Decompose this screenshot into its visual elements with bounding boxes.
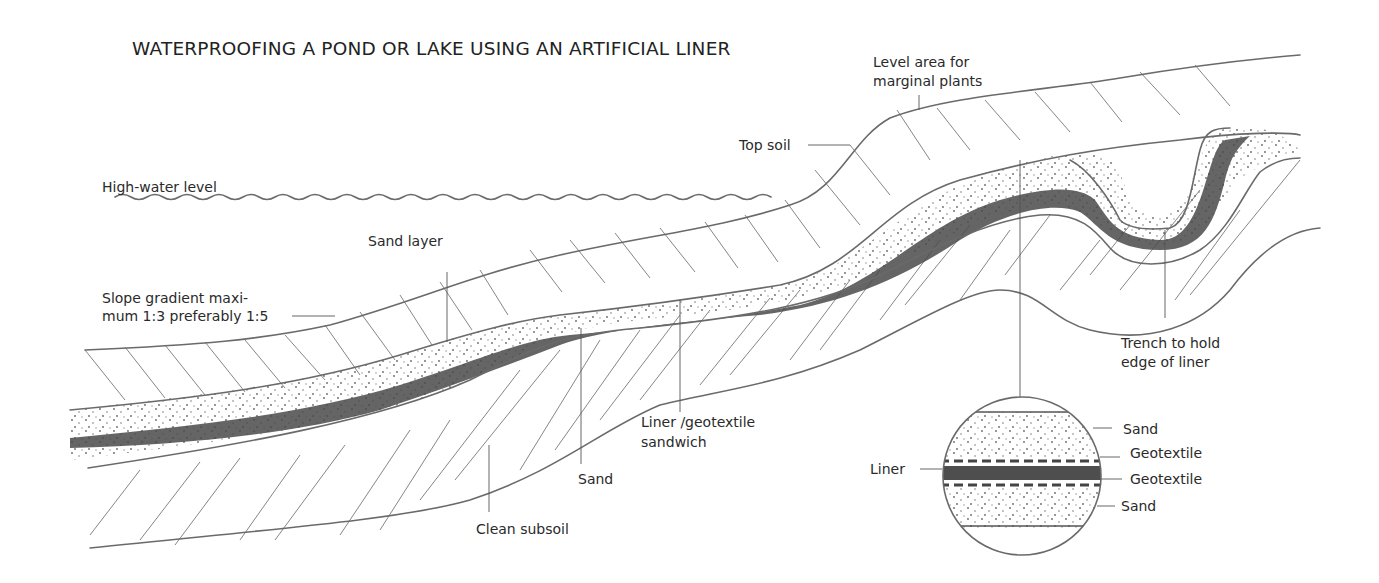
label-slope-line1: Slope gradient maxi- <box>102 289 248 308</box>
inset-label-liner: Liner <box>870 460 905 479</box>
inset-label-sand-top: Sand <box>1123 420 1158 439</box>
diagram-title: WATERPROOFING A POND OR LAKE USING AN AR… <box>132 38 731 59</box>
label-level-area-line2: marginal plants <box>873 72 982 91</box>
label-sand-layer: Sand layer <box>368 232 443 251</box>
label-trench-line1: Trench to hold <box>1121 334 1220 353</box>
label-liner-sandwich-line1: Liner /geotextile <box>641 413 755 432</box>
sand-band <box>70 128 1300 460</box>
inset-label-geotextile-top: Geotextile <box>1130 444 1202 463</box>
topsoil-hatching <box>85 65 1230 400</box>
label-high-water-level: High-water level <box>102 178 217 197</box>
label-level-area-line1: Level area for <box>873 53 969 72</box>
inset-label-geotextile-bottom: Geotextile <box>1130 470 1202 489</box>
label-sand: Sand <box>578 470 613 489</box>
inset-magnified-view <box>920 397 1122 555</box>
label-liner-sandwich-line2: sandwich <box>641 433 707 452</box>
inset-label-sand-bottom: Sand <box>1121 497 1156 516</box>
label-slope-line2: mum 1:3 preferably 1:5 <box>102 307 268 326</box>
label-clean-subsoil: Clean subsoil <box>476 520 569 539</box>
label-trench-line2: edge of liner <box>1121 353 1209 372</box>
label-top-soil: Top soil <box>739 136 791 155</box>
